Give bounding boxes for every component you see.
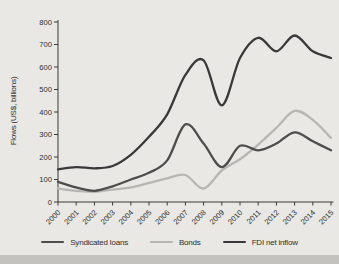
x-tick-label: 2000 bbox=[44, 208, 62, 226]
legend-label: FDI net inflow bbox=[252, 238, 298, 247]
y-tick-label: 500 bbox=[39, 85, 52, 94]
series-syndicated-loans-line bbox=[58, 124, 331, 191]
legend-item-bonds: Bonds bbox=[150, 238, 201, 247]
x-tick-label: 2007 bbox=[171, 208, 189, 226]
x-tick-label: 2015 bbox=[317, 208, 335, 226]
chart-canvas: 0100200300400500600700800200020012002200… bbox=[0, 0, 339, 264]
legend-swatch bbox=[150, 241, 173, 244]
footer-strip bbox=[0, 255, 339, 264]
x-tick-label: 2006 bbox=[153, 208, 171, 226]
legend-swatch bbox=[41, 241, 64, 244]
series-fdi-net-inflow-line bbox=[58, 36, 331, 170]
legend-label: Bonds bbox=[179, 238, 201, 247]
series-bonds-line bbox=[58, 111, 331, 192]
y-tick-label: 700 bbox=[39, 40, 52, 49]
x-tick-label: 2003 bbox=[99, 208, 117, 226]
x-tick-label: 2008 bbox=[190, 208, 208, 226]
y-tick-label: 200 bbox=[39, 153, 52, 162]
x-tick-label: 2002 bbox=[80, 208, 98, 226]
x-tick-label: 2009 bbox=[208, 208, 226, 226]
y-tick-label: 0 bbox=[48, 198, 52, 207]
legend-item-syndicated-loans: Syndicated loans bbox=[41, 238, 128, 247]
x-tick-label: 2001 bbox=[62, 208, 80, 226]
x-tick-label: 2005 bbox=[135, 208, 153, 226]
y-tick-label: 600 bbox=[39, 63, 52, 72]
x-tick-label: 2011 bbox=[245, 208, 263, 226]
x-tick-label: 2014 bbox=[299, 208, 317, 226]
legend: Syndicated loansBondsFDI net inflow bbox=[0, 235, 339, 249]
y-tick-label: 400 bbox=[39, 108, 52, 117]
figure: Flows (US$, billions) 010020030040050060… bbox=[0, 0, 339, 264]
legend-item-fdi-net-inflow: FDI net inflow bbox=[223, 238, 298, 247]
x-tick-label: 2010 bbox=[226, 208, 244, 226]
legend-swatch bbox=[223, 241, 246, 244]
x-tick-label: 2013 bbox=[281, 208, 299, 226]
x-tick-label: 2004 bbox=[117, 208, 135, 226]
x-tick-label: 2012 bbox=[262, 208, 280, 226]
legend-label: Syndicated loans bbox=[70, 238, 128, 247]
y-tick-label: 300 bbox=[39, 130, 52, 139]
y-tick-label: 800 bbox=[39, 18, 52, 27]
y-tick-label: 100 bbox=[39, 175, 52, 184]
